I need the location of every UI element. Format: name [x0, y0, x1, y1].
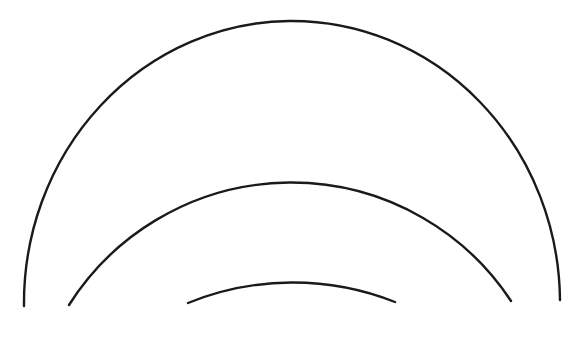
canvas-background [0, 0, 578, 345]
concentric-arcs-diagram [0, 0, 578, 345]
